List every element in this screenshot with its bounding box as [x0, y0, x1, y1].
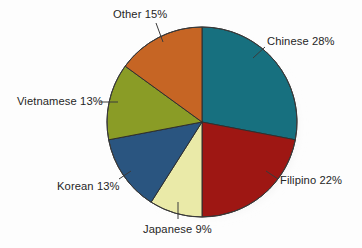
pie-label-other: Other 15% — [113, 8, 167, 20]
pie-label-korean: Korean 13% — [57, 180, 120, 192]
pie-label-chinese: Chinese 28% — [267, 35, 335, 47]
pie-chart-figure: Chinese 28% Filipino 22% Japanese 9% Kor… — [0, 0, 362, 248]
pie-label-filipino: Filipino 22% — [280, 174, 342, 186]
pie-label-japanese: Japanese 9% — [143, 223, 212, 235]
pie-slices — [107, 27, 297, 217]
pie-label-vietnamese: Vietnamese 13% — [17, 95, 103, 107]
